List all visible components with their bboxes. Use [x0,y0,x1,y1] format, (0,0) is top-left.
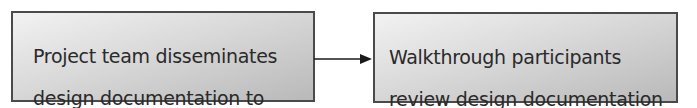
process-box-disseminate-docs: Project team disseminates design documen… [11,11,315,102]
flow-arrow-icon [314,50,374,70]
process-box-review-docs: Walkthrough participants review design d… [373,12,678,103]
box-text-line: Walkthrough participants [389,47,676,68]
box-text-line: design documentation to [33,88,313,108]
box-text-line: review design documentation [389,89,676,108]
box-text-line: Project team disseminates [33,46,313,67]
